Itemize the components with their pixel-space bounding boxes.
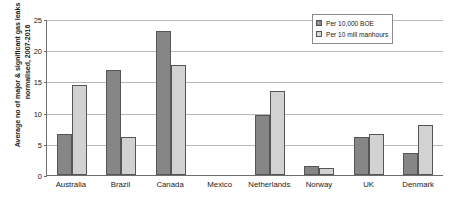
- chart-legend: Per 10,000 BOEPer 10 mill manhours: [312, 14, 393, 44]
- bar: [156, 31, 171, 175]
- x-axis-label: Netherlands: [245, 180, 295, 196]
- bar-group: [47, 20, 97, 175]
- bar-group: [97, 20, 147, 175]
- y-axis-tick: [44, 176, 47, 177]
- bar: [354, 137, 369, 175]
- bar: [57, 134, 72, 175]
- bar: [418, 125, 433, 175]
- bar: [106, 70, 121, 175]
- bar: [255, 115, 270, 175]
- x-axis-label: Denmark: [393, 180, 443, 196]
- bar-group: [146, 20, 196, 175]
- legend-label: Per 10 mill manhours: [326, 31, 388, 38]
- x-axis-label: Brazil: [96, 180, 146, 196]
- bar: [319, 168, 334, 175]
- bar-group: [196, 20, 246, 175]
- gas-leaks-bar-chart: Average no of major & significant gas le…: [0, 0, 449, 213]
- y-axis-tick-label: 15: [24, 78, 42, 87]
- bar: [171, 65, 186, 175]
- bar: [72, 85, 87, 175]
- bar: [369, 134, 384, 175]
- y-axis-tick-labels: 0510152025: [22, 0, 42, 213]
- legend-item[interactable]: Per 10,000 BOE: [316, 18, 388, 28]
- y-axis-tick-label: 0: [24, 172, 42, 181]
- bar: [121, 137, 136, 175]
- bar: [403, 153, 418, 175]
- bar: [304, 166, 319, 175]
- x-axis-label: Mexico: [195, 180, 245, 196]
- bar-group: [394, 20, 444, 175]
- y-axis-tick-label: 20: [24, 47, 42, 56]
- legend-swatch-icon: [316, 20, 322, 26]
- x-axis-category-labels: AustraliaBrazilCanadaMexicoNetherlandsNo…: [46, 180, 443, 196]
- x-axis-label: Australia: [46, 180, 96, 196]
- legend-label: Per 10,000 BOE: [326, 20, 374, 27]
- x-axis-label: UK: [344, 180, 394, 196]
- y-axis-tick-label: 5: [24, 140, 42, 149]
- y-axis-tick-label: 10: [24, 109, 42, 118]
- x-axis-label: Norway: [294, 180, 344, 196]
- y-axis-tick-label: 25: [24, 16, 42, 25]
- x-axis-label: Canada: [145, 180, 195, 196]
- bar: [270, 91, 285, 175]
- legend-item[interactable]: Per 10 mill manhours: [316, 29, 388, 39]
- bar-group: [245, 20, 295, 175]
- legend-swatch-icon: [316, 31, 322, 37]
